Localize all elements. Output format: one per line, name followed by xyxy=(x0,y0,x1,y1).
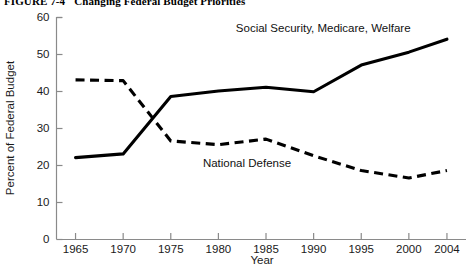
x-tick-label: 1990 xyxy=(301,243,327,255)
x-axis-title: Year xyxy=(250,254,273,266)
x-tick-label: 1965 xyxy=(63,243,89,255)
y-axis-ticks xyxy=(57,18,63,240)
series-label-social-security: Social Security, Medicare, Welfare xyxy=(236,22,411,34)
y-tick-label: 60 xyxy=(37,11,50,23)
chart-container: 0102030405060 19651970197519801985199019… xyxy=(0,0,469,268)
y-tick-label: 10 xyxy=(37,196,50,208)
y-tick-label-group: 0102030405060 xyxy=(37,11,50,245)
series-line-social-security xyxy=(76,39,447,157)
x-tick-label: 1970 xyxy=(110,243,136,255)
y-tick-label: 20 xyxy=(37,159,50,171)
series-label-national-defense: National Defense xyxy=(203,157,291,169)
x-tick-label: 2000 xyxy=(396,243,422,255)
y-tick-label: 40 xyxy=(37,85,50,97)
x-axis-ticks xyxy=(76,233,447,239)
y-axis-title: Percent of Federal Budget xyxy=(4,60,16,195)
x-tick-label: 1980 xyxy=(206,243,232,255)
x-tick-label: 2004 xyxy=(434,243,460,255)
y-tick-label: 30 xyxy=(37,122,50,134)
x-tick-label: 1975 xyxy=(158,243,184,255)
line-chart: 0102030405060 19651970197519801985199019… xyxy=(0,0,469,268)
y-tick-label: 0 xyxy=(43,233,49,245)
x-tick-label: 1995 xyxy=(348,243,374,255)
y-tick-label: 50 xyxy=(37,48,50,60)
